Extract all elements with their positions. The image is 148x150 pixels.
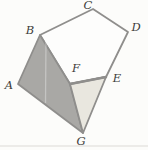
geometry-figure: ABCDEFG [0, 0, 148, 150]
fold-line-artifact [46, 38, 47, 103]
vertex-label-E: E [112, 71, 122, 85]
geometry-figure-canvas: ABCDEFG [0, 0, 148, 150]
vertex-label-G: G [76, 134, 85, 148]
vertex-label-F: F [71, 61, 81, 75]
vertex-label-D: D [130, 20, 140, 34]
vertex-label-A: A [4, 78, 13, 92]
vertex-label-C: C [84, 0, 93, 12]
vertex-label-B: B [25, 23, 34, 37]
